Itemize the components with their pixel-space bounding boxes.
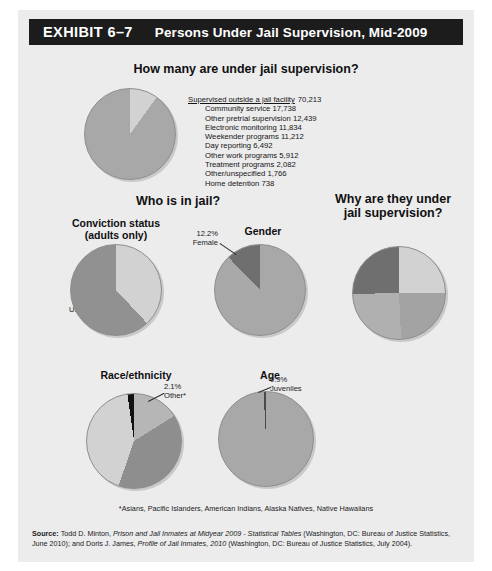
pie-jail-supervision [84, 88, 176, 180]
legend-item: Home detention 738 [188, 179, 321, 188]
section-heading-how-many: How many are under jail supervision? [18, 62, 474, 76]
legend-header: Supervised outside a jail facility70,213 [188, 95, 321, 104]
source-italic1: Prison and Jail Inmates at Midyear 2009 … [113, 529, 301, 538]
section-heading-why: Why are they under jail supervision? [318, 192, 468, 220]
source-part1: Todd D. Minton, [59, 529, 113, 538]
legend-header-text: Supervised outside a jail facility [188, 95, 295, 104]
source-italic2: Profile of Jail Inmates, 2010 [137, 539, 226, 548]
legend-item: Electronic monitoring 11,834 [188, 123, 321, 132]
label-female: 12.2% Female [170, 229, 218, 247]
leader-line-female [219, 243, 236, 255]
section-heading-why-line1: Why are they under [335, 192, 451, 206]
legend-item: Weekender programs 11,212 [188, 132, 321, 141]
pie-conviction-status [70, 244, 162, 336]
subtitle-conviction-status: Conviction status (adults only) [56, 217, 176, 241]
subtitle-race-ethnicity: Race/ethnicity [76, 369, 196, 381]
legend-item: Treatment programs 2,082 [188, 160, 321, 169]
legend-item: Community service 17,738 [188, 104, 321, 113]
source-label: Source: [32, 529, 59, 538]
exhibit-header-bar: EXHIBIT 6–7 Persons Under Jail Supervisi… [29, 19, 463, 45]
label-other: 2.1% Other* [164, 382, 204, 400]
subtitle-conviction-line2: (adults only) [85, 229, 147, 241]
exhibit-title: Persons Under Jail Supervision, Mid-2009 [155, 25, 428, 40]
legend-item: Other work programs 5,912 [188, 151, 321, 160]
subtitle-gender: Gender [218, 225, 308, 237]
pie-age [218, 391, 314, 487]
label-juveniles: 0.9% Juveniles [270, 375, 326, 393]
pie-gender [214, 244, 306, 336]
pie-disc [86, 393, 182, 489]
subtitle-conviction-line1: Conviction status [72, 217, 160, 229]
legend-header-value: 70,213 [298, 95, 322, 104]
supervision-legend: Supervised outside a jail facility70,213… [188, 95, 321, 188]
pie-disc [352, 246, 446, 340]
pie-disc [70, 244, 162, 336]
source-part3: (Washington, DC: Bureau of Justice Stati… [226, 539, 412, 548]
legend-item: Other/unspecified 1,766 [188, 169, 321, 178]
exhibit-number: EXHIBIT 6–7 [43, 24, 133, 40]
pie-disc [84, 88, 176, 180]
source-note: Source: Todd D. Minton, Prison and Jail … [32, 529, 462, 549]
pie-race-ethnicity [86, 393, 182, 489]
pie-disc [218, 391, 314, 487]
section-heading-who: Who is in jail? [48, 194, 308, 208]
footnote-asterisk: *Asians, Pacific Islanders, American Ind… [18, 504, 474, 513]
exhibit-page: EXHIBIT 6–7 Persons Under Jail Supervisi… [18, 10, 474, 562]
pie-offense-type [352, 246, 446, 340]
section-heading-why-line2: jail supervision? [344, 206, 443, 220]
legend-item: Other pretrial supervision 12,439 [188, 114, 321, 123]
pie-disc [214, 244, 306, 336]
legend-item: Day reporting 6,492 [188, 141, 321, 150]
